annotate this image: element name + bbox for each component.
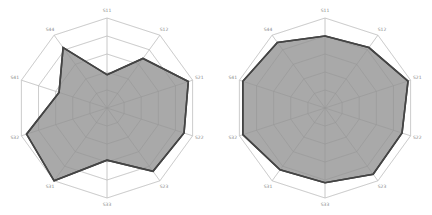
axis-label: S41	[10, 75, 19, 80]
axis-label: S31	[46, 184, 55, 189]
axis-label: S31	[264, 184, 273, 189]
axis-label: S33	[321, 202, 330, 207]
axis-label: S11	[103, 8, 112, 13]
axis-label: S21	[413, 75, 422, 80]
axis-label: S23	[378, 184, 387, 189]
axis-label: S32	[10, 135, 19, 140]
axis-label: S44	[264, 27, 273, 32]
axis-label: S44	[46, 27, 55, 32]
axis-label: S12	[160, 27, 169, 32]
radar-chart-left: S11S12S21S22S23S33S31S32S41S44	[10, 8, 203, 207]
radar-chart-canvas: S11S12S21S22S23S33S31S32S41S44 S11S12S21…	[0, 0, 432, 215]
axis-label: S32	[228, 135, 237, 140]
axis-label: S41	[228, 75, 237, 80]
axis-label: S33	[103, 202, 112, 207]
axis-label: S11	[321, 8, 330, 13]
axis-label: S23	[160, 184, 169, 189]
axis-label: S22	[195, 135, 204, 140]
radar-chart-right: S11S12S21S22S23S33S31S32S41S44	[228, 8, 421, 207]
axis-label: S22	[413, 135, 422, 140]
radar-charts: S11S12S21S22S23S33S31S32S41S44 S11S12S21…	[0, 0, 432, 215]
axis-label: S12	[378, 27, 387, 32]
axis-label: S21	[195, 75, 204, 80]
